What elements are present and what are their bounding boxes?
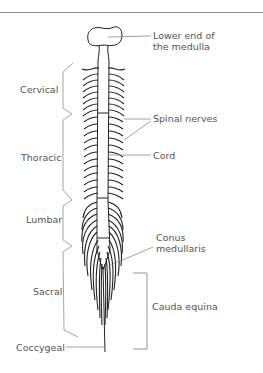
thoracic-bracket [63, 120, 72, 206]
cauda-equina-bracket [133, 273, 147, 349]
medulla-bulb [88, 27, 122, 46]
label-conus-line2: medullaris [156, 243, 206, 254]
spinal-nerves-leader-2 [124, 121, 151, 140]
label-conus-medullaris: Conus medullaris [156, 232, 206, 254]
label-sacral: Sacral [33, 286, 62, 297]
label-cervical: Cervical [20, 84, 58, 95]
label-conus-line1: Conus [156, 232, 206, 243]
label-cord: Cord [153, 150, 175, 161]
lumbar-bracket-lower [63, 225, 72, 252]
label-medulla-line2: the medulla [153, 41, 215, 52]
label-medulla: Lower end of the medulla [153, 30, 215, 52]
label-spinal-nerves: Spinal nerves [153, 113, 217, 124]
spinal-cord-diagram [0, 0, 263, 373]
label-thoracic: Thoracic [21, 152, 61, 163]
filum-terminale [103, 268, 105, 352]
cervical-bracket [63, 63, 73, 120]
cord-left-edge [97, 45, 102, 268]
cord-right-edge [104, 45, 110, 268]
label-medulla-line1: Lower end of [153, 30, 215, 41]
label-coccygeal: Coccygeal [16, 342, 65, 353]
label-lumbar: Lumbar [26, 214, 62, 225]
sacral-bracket [63, 252, 78, 337]
label-cauda-equina: Cauda equina [152, 301, 218, 312]
